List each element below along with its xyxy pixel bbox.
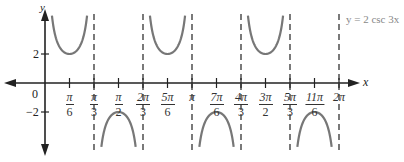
x-tick-denominator: 2 <box>115 105 121 118</box>
x-tick-denominator: 3 <box>91 105 97 118</box>
curve-branch <box>150 16 185 54</box>
x-tick-label: 3π2 <box>258 91 272 118</box>
x-tick-label: 4π3 <box>234 91 248 118</box>
x-axis-label: x <box>363 76 368 88</box>
x-tick-denominator: 6 <box>213 105 219 118</box>
x-tick-denominator: 6 <box>312 105 318 118</box>
x-tick-numerator: 3π <box>258 91 272 105</box>
x-tick-numerator: 5π <box>160 91 174 105</box>
x-tick-numerator: 11π <box>305 91 324 105</box>
x-tick-label: 7π6 <box>209 91 223 118</box>
x-tick-label: 11π6 <box>305 91 324 118</box>
x-tick-numerator: 4π <box>234 91 248 105</box>
x-tick-numerator: π <box>65 91 73 105</box>
x-tick-numerator: 2π <box>136 91 150 105</box>
legend: y = 2 csc 3x <box>346 13 399 25</box>
x-tick-label: 2π <box>333 90 345 105</box>
x-tick-denominator: 3 <box>140 105 146 118</box>
origin-label: 0 <box>32 88 38 100</box>
x-tick-numerator: π <box>90 91 98 105</box>
x-tick-denominator: 6 <box>66 105 72 118</box>
x-tick-label: 5π3 <box>283 91 297 118</box>
plot-area <box>0 0 404 162</box>
x-tick-denominator: 3 <box>287 105 293 118</box>
legend-label: y = 2 csc 3x <box>346 13 399 25</box>
curve-branch <box>52 16 87 54</box>
x-tick-denominator: 2 <box>262 105 268 118</box>
x-tick-label: π <box>189 90 195 105</box>
x-tick-numerator: 7π <box>209 91 223 105</box>
x-tick-denominator: 3 <box>238 105 244 118</box>
x-tick-label: π2 <box>114 91 122 118</box>
x-tick-numerator: 5π <box>283 91 297 105</box>
x-tick-label: 5π6 <box>160 91 174 118</box>
x-tick-label: 2π3 <box>136 91 150 118</box>
x-tick-label: π3 <box>90 91 98 118</box>
x-tick-numerator: π <box>114 91 122 105</box>
y-axis-label: y <box>40 2 45 13</box>
x-axis-left-arrow-icon <box>4 79 16 87</box>
y-tick-label-2: 2 <box>33 48 39 60</box>
curve-branch <box>248 16 283 54</box>
y-tick-label-neg2: −2 <box>26 106 39 118</box>
x-axis-right-arrow-icon <box>348 79 360 87</box>
x-tick-label: π6 <box>65 91 73 118</box>
y-axis-down-arrow-icon <box>41 144 49 156</box>
x-tick-denominator: 6 <box>164 105 170 118</box>
